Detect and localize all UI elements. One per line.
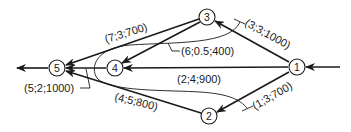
label-edge-3-5: (7;3;700) [103, 21, 149, 45]
cut-tick-bottom [242, 106, 253, 111]
node-3: 3 [199, 9, 215, 25]
label-edge-1-4: (2;4;900) [177, 73, 221, 85]
node-1-label: 1 [294, 61, 300, 73]
label-edge-1-2: (1;3;700) [250, 79, 294, 111]
label-edge-4-5: (5;2;1000) [24, 82, 74, 94]
node-5: 5 [49, 60, 65, 76]
node-1: 1 [289, 59, 305, 75]
node-3-label: 3 [204, 11, 210, 23]
edge-1-4 [124, 67, 288, 68]
node-4-label: 4 [112, 62, 118, 74]
leader-6-0.5-400 [168, 43, 180, 51]
node-2-label: 2 [206, 110, 212, 122]
label-edge-1-3: (3;3;1000) [243, 16, 293, 51]
node-5-label: 5 [54, 62, 60, 74]
network-diagram: 1 2 3 4 5 (3;3;1000) (1;3;700) (2;4;900)… [0, 0, 351, 132]
node-2: 2 [201, 108, 217, 124]
label-edge-3-4: (6;0.5;400) [181, 45, 234, 57]
node-4: 4 [107, 60, 123, 76]
